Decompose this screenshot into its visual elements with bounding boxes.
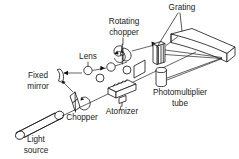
label-rotating-chopper-line2: chopper <box>109 28 139 37</box>
label-photomultiplier-line2: tube <box>172 99 188 108</box>
lens-element-1 <box>84 66 106 75</box>
label-fixed-mirror-line1: Fixed <box>28 71 48 80</box>
fixed-mirror <box>57 69 64 83</box>
rotating-chopper <box>114 44 131 64</box>
diagram-canvas: Grating Rotating chopper Lens Fixed mirr… <box>0 0 239 159</box>
atomizer <box>108 80 136 107</box>
label-chopper: Chopper <box>66 113 98 122</box>
label-rotating-chopper-line1: Rotating <box>109 17 140 26</box>
label-fixed-mirror-line2: mirror <box>27 82 49 91</box>
label-light-source-line2: source <box>24 146 49 155</box>
optical-schematic-diagram: Grating Rotating chopper Lens Fixed mirr… <box>0 0 239 159</box>
leader-line-grating-2 <box>180 13 182 31</box>
label-photomultiplier-line1: Photomultiplier <box>153 88 207 97</box>
chopper-assembly <box>70 92 90 112</box>
label-grating: Grating <box>169 3 196 12</box>
label-light-source-line1: Light <box>27 135 45 144</box>
beam-splitter-mirror <box>134 60 145 78</box>
photomultiplier-tube <box>156 67 166 86</box>
ray-to-fixed-mirror <box>61 80 73 92</box>
label-lens: Lens <box>79 52 97 61</box>
grating <box>153 42 165 65</box>
ray-from-fixed-mirror <box>64 71 83 75</box>
label-atomizer: Atomizer <box>106 107 139 116</box>
